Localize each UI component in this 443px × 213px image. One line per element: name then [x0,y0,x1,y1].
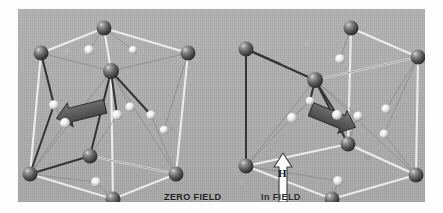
cube-bonds-dark-2 [246,49,348,166]
diagram-panel: ZERO FIELD In FIELD H [18,9,425,202]
lattice-illustration [18,9,425,202]
zero-field-label: ZERO FIELD [164,192,222,202]
in-field-cell [239,21,426,203]
in-field-label: In FIELD [261,192,301,202]
cube-frame-white [30,28,188,199]
field-symbol-label: H [278,167,287,179]
zero-field-cell [23,21,196,203]
figure-root: ZERO FIELD In FIELD H [0,0,443,213]
